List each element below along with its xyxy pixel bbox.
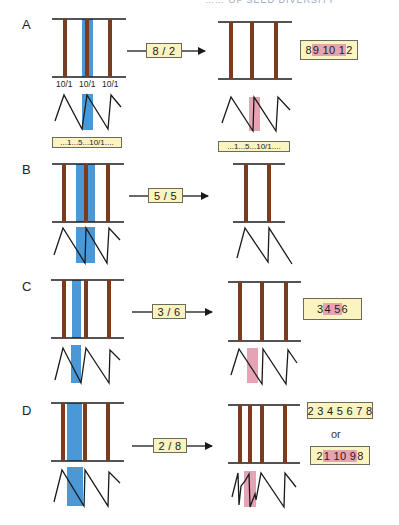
panel-letter-d: D xyxy=(22,403,31,418)
panel-c-right-ladder xyxy=(228,282,301,341)
result-seg: 6 xyxy=(342,303,348,315)
panel-d-left-sawtooth xyxy=(54,467,120,506)
result-box-a: 8 9 10 1 2 xyxy=(300,40,358,60)
stem-bar xyxy=(85,19,89,77)
tick-label: 10/1 xyxy=(56,79,73,89)
panel-d-left-ladder xyxy=(51,403,124,461)
panel-b-right-ladder xyxy=(233,164,285,222)
pink-highlight-band xyxy=(247,348,258,383)
panel-b-right-sawtooth xyxy=(237,228,292,264)
panel-d xyxy=(51,403,300,507)
panel-d-right-sawtooth xyxy=(232,471,296,507)
panel-a-right-ladder xyxy=(218,22,292,79)
stem-bar xyxy=(250,22,254,79)
panel-d-right-ladder xyxy=(228,405,300,463)
stem-bar xyxy=(63,19,67,77)
result-box-d-1: 2 3 4 5 6 7 8 xyxy=(307,402,373,419)
stem-bar xyxy=(229,22,233,79)
blue-highlight-band xyxy=(82,94,93,130)
panel-a-right-sawtooth xyxy=(222,97,290,131)
blue-highlight-band xyxy=(72,280,81,338)
blue-highlight-band xyxy=(71,345,81,383)
result-seg-highlight: 1 10 9 xyxy=(323,450,357,462)
panel-c-left-ladder xyxy=(51,280,124,338)
panel-a-left-sawtooth xyxy=(55,94,121,130)
result-seg: 8 xyxy=(357,450,363,462)
panel-c-left-sawtooth xyxy=(55,345,120,383)
panel-c-right-sawtooth xyxy=(231,348,297,384)
result-seg: 2 xyxy=(346,44,352,56)
result-seg-highlight: 4 5 xyxy=(323,303,341,315)
or-separator: or xyxy=(331,428,341,440)
panel-a xyxy=(52,19,292,131)
panel-b-left-sawtooth xyxy=(54,227,120,263)
result-seg: 2 3 4 5 6 7 8 xyxy=(307,405,372,417)
tick-label: 10/1 xyxy=(79,79,96,89)
blue-highlight-band xyxy=(67,403,82,461)
panel-letter-c: C xyxy=(22,279,31,294)
panel-b xyxy=(52,164,292,264)
ratio-label-b: 5 / 5 xyxy=(148,188,183,203)
panel-a-left-ladder xyxy=(52,19,126,77)
stem-bar xyxy=(274,22,278,79)
ratio-label-c: 3 / 6 xyxy=(152,304,186,319)
panel-c xyxy=(51,280,301,384)
tick-label: 10/1 xyxy=(102,79,119,89)
stem-bar xyxy=(108,19,112,77)
ratio-label-d: 2 / 8 xyxy=(153,438,187,453)
ratio-label-a: 8 / 2 xyxy=(146,43,182,58)
panel-letter-a: A xyxy=(22,17,31,32)
panel-letter-b: B xyxy=(22,162,31,177)
result-box-c: 3 4 5 6 xyxy=(303,298,362,320)
sequence-caption-right: ...1...5...10/1.... xyxy=(218,141,290,152)
result-box-d-2: 2 1 10 9 8 xyxy=(310,446,370,465)
panel-b-left-ladder xyxy=(52,164,124,222)
result-seg-highlight: 9 10 1 xyxy=(312,44,346,56)
sequence-caption-left: ...1...5...10/1.... xyxy=(52,137,122,148)
